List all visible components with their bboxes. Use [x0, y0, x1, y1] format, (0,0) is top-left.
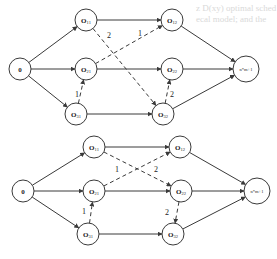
conjunctive-arc	[181, 26, 235, 62]
node-label: n*m+1	[251, 189, 264, 194]
node-source: 0	[9, 58, 31, 80]
conjunctive-arc	[32, 197, 79, 228]
node-sink: n*m+1	[233, 56, 259, 82]
arc-weight-label: 1	[115, 165, 119, 174]
node-o32: O32	[152, 103, 174, 125]
arc-weight-label: 2	[165, 208, 169, 217]
node-o31: O31	[77, 223, 99, 245]
conjunctive-arc	[190, 152, 246, 184]
node-o11: O11	[75, 9, 97, 31]
node-o12: O12	[161, 9, 183, 31]
node-o21: O21	[75, 58, 97, 80]
conjunctive-arc	[29, 76, 68, 107]
node-o12: O12	[169, 136, 191, 158]
disjunctive-arc	[175, 202, 179, 223]
node-label: 0	[18, 66, 22, 74]
node-source: 0	[12, 180, 34, 202]
disjunctive-arc	[93, 29, 156, 106]
node-label: 0	[21, 188, 25, 196]
arc-weight-label: 1	[82, 207, 86, 216]
node-o11: O11	[83, 136, 105, 158]
arc-weight-label: 2	[154, 165, 158, 174]
node-sink: n*m+1	[244, 178, 270, 204]
disjunctive-graph-diagrams: 21122112 0O11O12O21O22O31O32n*m+10O11O12…	[0, 0, 277, 259]
node-o22: O22	[170, 180, 192, 202]
disjunctive-arc	[96, 25, 163, 63]
conjunctive-arc	[32, 153, 84, 185]
node-o22: O22	[161, 58, 183, 80]
arc-weight-label: 1	[75, 90, 79, 99]
node-o32: O32	[162, 223, 184, 245]
node-label: n*m+1	[240, 67, 253, 72]
conjunctive-arc	[29, 27, 77, 63]
disjunctive-arc	[78, 80, 83, 104]
conjunctive-arc	[183, 197, 246, 229]
node-o31: O31	[65, 103, 87, 125]
node-o21: O21	[83, 180, 105, 202]
arc-weight-label: 1	[138, 29, 142, 38]
disjunctive-arc	[90, 202, 93, 223]
arc-weight-label: 2	[107, 31, 111, 40]
conjunctive-arc	[173, 75, 235, 109]
arc-weight-label: 2	[170, 90, 174, 99]
